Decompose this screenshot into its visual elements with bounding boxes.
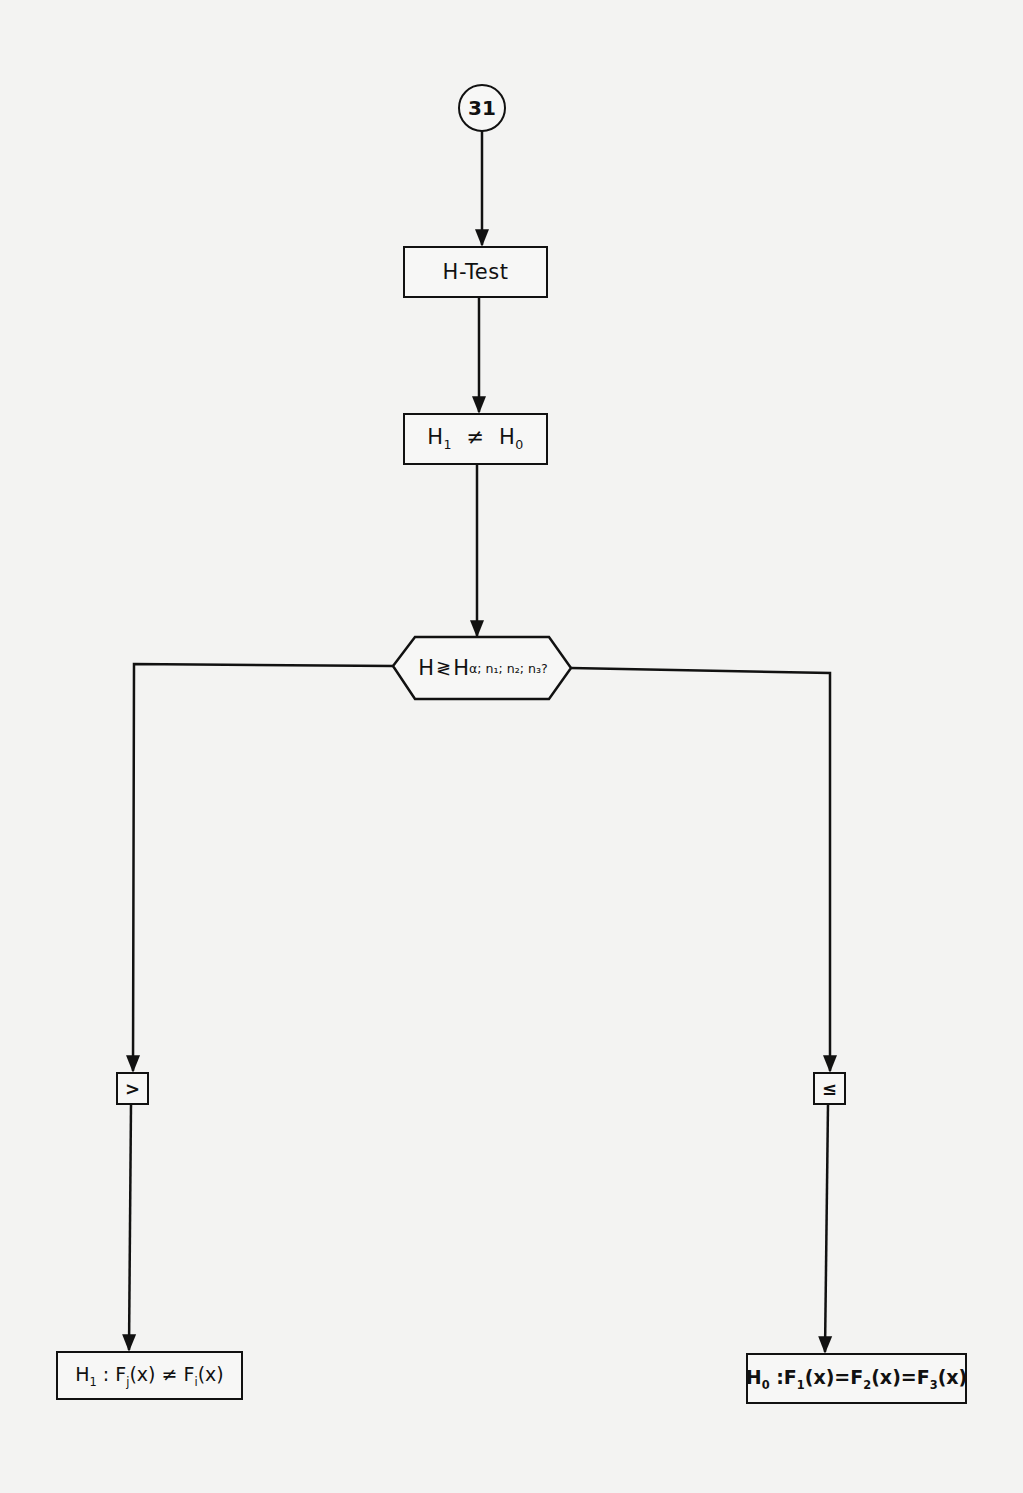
condition-greater: >	[116, 1072, 149, 1105]
flowchart-canvas: 31 H-Test H1 ≠ H0 H ≷ Hα; n₁; n₂; n₃? > …	[0, 0, 1023, 1493]
process-h-test-label: H-Test	[443, 260, 509, 284]
connector-label: 31	[468, 96, 496, 120]
condition-less-equal: ≤	[813, 1072, 846, 1105]
result-h0-text: H0 :F1(x)=F2(x)=F3(x)	[746, 1366, 968, 1392]
not-equal-symbol: ≠	[466, 425, 484, 449]
hypothesis-text: H1 ≠ H0	[427, 425, 523, 452]
flowchart-edges	[0, 0, 1023, 1493]
critical-value-subscript: α; n₁; n₂; n₃	[469, 661, 541, 676]
connector-31: 31	[458, 84, 506, 132]
edge-gt-to-h1	[129, 1104, 131, 1350]
process-hypothesis: H1 ≠ H0	[403, 413, 548, 465]
process-h-test: H-Test	[403, 246, 548, 298]
edge-decision-left-branch	[133, 664, 393, 1071]
result-h1-reject: H1 : Fj(x) ≠ Fi(x)	[56, 1351, 243, 1400]
decision-label: H ≷ Hα; n₁; n₂; n₃?	[400, 640, 566, 696]
result-h0-accept: H0 :F1(x)=F2(x)=F3(x)	[746, 1353, 967, 1404]
greater-less-symbol: ≷	[436, 659, 451, 677]
question-mark: ?	[541, 661, 548, 676]
result-h1-text: H1 : Fj(x) ≠ Fi(x)	[75, 1363, 223, 1389]
edge-le-to-h0	[825, 1104, 828, 1352]
edge-decision-right-branch	[571, 668, 830, 1071]
